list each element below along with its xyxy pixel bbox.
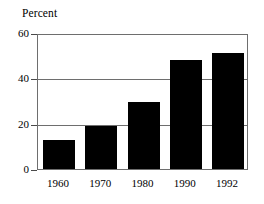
y-tick-mark: [31, 170, 37, 171]
y-tick-label: 60: [18, 28, 29, 39]
bars-layer: [38, 35, 247, 169]
x-tick-label: 1980: [121, 177, 163, 189]
chart-title: Percent: [22, 7, 57, 20]
bar: [128, 102, 160, 169]
bar: [85, 126, 117, 169]
bar: [43, 140, 75, 169]
y-tick-label: 40: [18, 73, 29, 84]
bar: [170, 60, 202, 169]
y-tick-label: 0: [24, 164, 30, 175]
x-tick-label: 1990: [164, 177, 206, 189]
x-tick-label: 1970: [79, 177, 121, 189]
bar: [212, 53, 244, 169]
x-tick-label: 1992: [206, 177, 248, 189]
bar-chart: Percent 0204060 19601970198019901992: [0, 0, 264, 204]
plot-area: [37, 34, 248, 170]
y-tick-label: 20: [18, 119, 29, 130]
x-tick-label: 1960: [37, 177, 79, 189]
